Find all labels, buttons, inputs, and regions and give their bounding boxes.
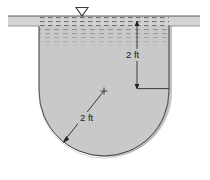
depth-dimension-label: 2 ft [126, 49, 140, 60]
engineering-diagram-figure: 2 ft 2 ft [0, 0, 210, 180]
tank-cross-section-svg: 2 ft 2 ft [0, 0, 210, 180]
ground-band [8, 16, 200, 26]
radius-dimension-label: 2 ft [80, 112, 94, 123]
water-table-triangle-icon [76, 8, 88, 17]
